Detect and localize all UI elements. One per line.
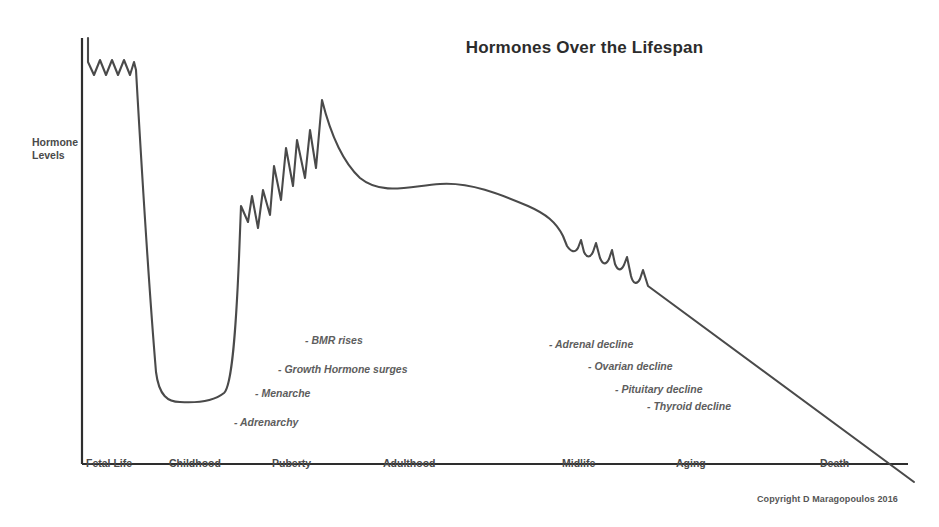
x-tick-aging: Aging <box>676 457 706 469</box>
annotation-growth-hormone-surges: - Growth Hormone surges <box>278 363 408 375</box>
chart-figure: Hormones Over the Lifespan Hormone Level… <box>0 0 939 527</box>
x-tick-midlife: Midlife <box>562 457 595 469</box>
chart-plot-area <box>0 0 939 527</box>
annotation-pituitary-decline: - Pituitary decline <box>615 383 703 395</box>
annotation-bmr-rises: - BMR rises <box>305 334 363 346</box>
x-tick-puberty: Puberty <box>272 457 311 469</box>
x-tick-death: Death <box>820 457 849 469</box>
copyright-notice: Copyright D Maragopoulos 2016 <box>757 494 898 504</box>
x-tick-fetal-life: Fetal Life <box>86 457 132 469</box>
x-tick-childhood: Childhood <box>169 457 221 469</box>
annotation-menarche: - Menarche <box>255 387 310 399</box>
annotation-adrenal-decline: - Adrenal decline <box>549 338 633 350</box>
annotation-thyroid-decline: - Thyroid decline <box>647 400 731 412</box>
annotation-ovarian-decline: - Ovarian decline <box>588 360 673 372</box>
hormone-level-curve <box>88 38 914 482</box>
annotation-adrenarchy: - Adrenarchy <box>234 416 298 428</box>
x-tick-adulthood: Adulthood <box>383 457 435 469</box>
